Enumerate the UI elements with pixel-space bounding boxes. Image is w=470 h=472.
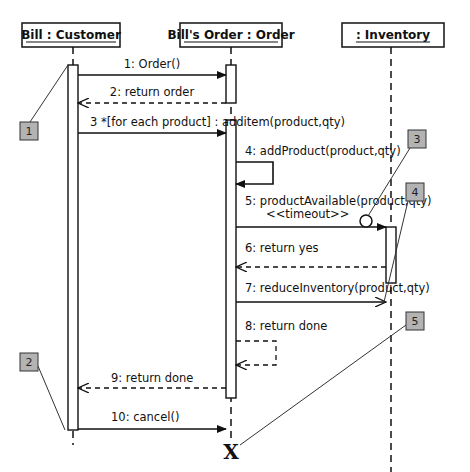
callout-leader-line	[240, 325, 406, 445]
message-label: 7: reduceInventory(product,qty)	[245, 281, 430, 295]
activation-bar-customer	[68, 65, 78, 430]
message-9: 9: return done	[78, 371, 226, 388]
message-10: 10: cancel()	[78, 410, 226, 429]
callout-leader-line	[30, 65, 68, 122]
activation-bar-order	[226, 65, 236, 103]
message-6: 6: return yes	[236, 241, 386, 267]
message-label: 2: return order	[110, 85, 195, 99]
message-label: 9: return done	[111, 371, 193, 385]
timeout-constraint-label: <<timeout>>	[266, 207, 349, 221]
self-return-arrow	[236, 341, 276, 365]
lifeline-header-label: Bill's Order : Order	[167, 28, 294, 42]
callout-2: 2	[20, 353, 65, 430]
callout-1: 1	[20, 65, 68, 140]
destroy-x-icon: X	[223, 440, 239, 464]
self-call-arrow	[236, 162, 273, 184]
timeout-circle-icon	[360, 215, 372, 227]
lifeline-header-label: : Inventory	[356, 28, 430, 42]
callout-number: 1	[26, 125, 33, 138]
message-8: 8: return done	[236, 319, 327, 365]
message-label: 3 *[for each product] : additem(product,…	[90, 115, 345, 129]
message-7: 7: reduceInventory(product,qty)	[236, 281, 430, 302]
lifeline-header-label: Bill : Customer	[21, 28, 121, 42]
callout-leader-line	[38, 366, 65, 430]
callout-number: 2	[26, 356, 33, 369]
message-label: 5: productAvailable(product,qty)	[245, 194, 432, 208]
message-label: 6: return yes	[245, 241, 319, 255]
message-label: 10: cancel()	[111, 410, 179, 424]
callout-number: 3	[414, 133, 421, 146]
message-4: 4: addProduct(product,qty)	[236, 144, 401, 184]
message-label: 4: addProduct(product,qty)	[245, 144, 401, 158]
message-1: 1: Order()	[78, 57, 226, 75]
sequence-diagram: Bill : CustomerBill's Order : Order: Inv…	[0, 0, 470, 472]
activation-bar-order	[226, 120, 236, 398]
message-3: 3 *[for each product] : additem(product,…	[78, 115, 345, 133]
callout-number: 5	[412, 315, 419, 328]
messages-layer: 1: Order()2: return order3 *[for each pr…	[78, 57, 432, 429]
message-label: 1: Order()	[124, 57, 181, 71]
callout-number: 4	[412, 186, 419, 199]
message-label: 8: return done	[245, 319, 327, 333]
message-2: 2: return order	[78, 85, 226, 103]
